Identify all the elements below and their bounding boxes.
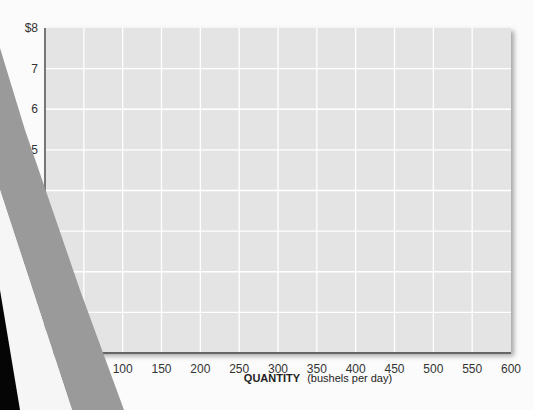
y-tick-label: $8 <box>25 21 39 35</box>
x-axis-title: QUANTITY (bushels per day) <box>244 372 392 384</box>
x-tick-label: 150 <box>151 362 171 376</box>
x-tick-label: 550 <box>462 362 482 376</box>
x-tick-label: 200 <box>190 362 210 376</box>
x-tick-label: 100 <box>113 362 133 376</box>
x-tick-label: 500 <box>423 362 443 376</box>
y-tick-label: 7 <box>31 62 38 76</box>
x-tick-label: 600 <box>501 362 521 376</box>
y-tick-label: 6 <box>31 102 38 116</box>
x-axis-title-unit: (bushels per day) <box>307 372 392 384</box>
x-axis-title-bold: QUANTITY <box>244 372 301 384</box>
chart: $8765 100150200250300350400450500550600 … <box>0 0 534 410</box>
